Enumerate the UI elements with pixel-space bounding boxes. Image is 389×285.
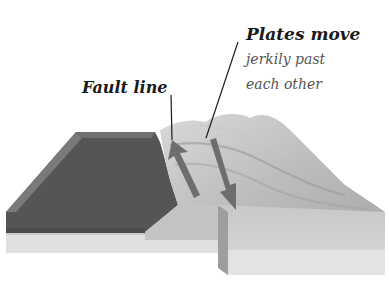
fault-line-label: Fault line xyxy=(82,78,168,97)
plates-move-title: Plates move xyxy=(246,24,360,44)
plates-move-line1: jerkily past xyxy=(246,47,325,72)
plates-move-line2: each other xyxy=(246,72,322,97)
